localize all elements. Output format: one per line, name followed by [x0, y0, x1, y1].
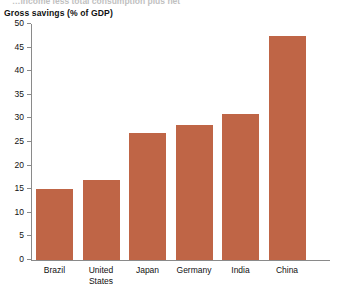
y-axis-tick-mark [27, 94, 31, 95]
y-axis-tick-mark [27, 141, 31, 142]
y-axis-tick-label: 40 [15, 65, 24, 76]
y-axis-tick-label: 20 [15, 160, 24, 171]
x-axis-line [31, 260, 330, 261]
x-axis-category-label: Brazil [31, 265, 78, 276]
x-axis-category-label: Germany [171, 265, 218, 276]
bar [222, 114, 259, 260]
y-axis-tick-mark [27, 259, 31, 260]
y-axis-tick-label: 10 [15, 207, 24, 218]
y-axis-tick-label: 15 [15, 183, 24, 194]
bar [176, 125, 213, 260]
y-axis-tick-mark [27, 117, 31, 118]
bar [83, 180, 120, 260]
y-axis-tick-mark [27, 70, 31, 71]
x-axis-category-label: United States [78, 265, 125, 286]
bar [36, 189, 73, 260]
y-axis-tick-mark [27, 235, 31, 236]
gross-savings-bar-chart: …income less total consumption plus net … [0, 0, 338, 294]
y-axis-tick-mark [27, 188, 31, 189]
y-axis-tick-label: 45 [15, 42, 24, 53]
y-axis-tick-mark [27, 23, 31, 24]
x-axis-category-label: Japan [124, 265, 171, 276]
caption-cutoff-text: …income less total consumption plus net [12, 0, 338, 6]
plot-area: 05101520253035404550 [31, 24, 330, 260]
y-axis-tick-label: 25 [15, 136, 24, 147]
x-axis-category-label: China [264, 265, 311, 276]
y-axis-tick-label: 0 [19, 254, 24, 265]
y-axis-tick-mark [27, 165, 31, 166]
bar [129, 133, 166, 260]
y-axis-tick-mark [27, 47, 31, 48]
y-axis-tick-label: 50 [15, 18, 24, 29]
x-axis-category-label: India [217, 265, 264, 276]
bar [269, 36, 306, 260]
y-axis-tick-mark [27, 212, 31, 213]
y-axis-tick-label: 30 [15, 112, 24, 123]
y-axis-tick-label: 35 [15, 89, 24, 100]
y-axis-tick-label: 5 [19, 230, 24, 241]
